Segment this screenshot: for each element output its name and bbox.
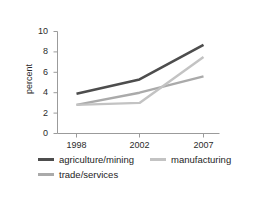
legend-swatch-manufacturing — [150, 158, 166, 161]
y-tick-label-8: 8 — [34, 47, 48, 56]
legend-item-trade-services: trade/services — [38, 169, 118, 180]
y-tick-label-0: 0 — [34, 129, 48, 138]
chart-plot-area: 0 2 4 6 8 10 1998 2002 2007 — [0, 12, 256, 147]
clipped-top-text — [0, 0, 256, 5]
legend-swatch-trade-services — [38, 173, 54, 176]
legend-item-manufacturing: manufacturing — [150, 154, 231, 165]
legend-row-1: agriculture/mining manufacturing — [38, 152, 256, 167]
x-tick-label-2007: 2007 — [184, 141, 224, 150]
legend-item-agriculture-mining: agriculture/mining — [38, 154, 134, 165]
y-tick-label-10: 10 — [31, 27, 48, 36]
y-tick-label-2: 2 — [34, 109, 48, 118]
legend-label-manufacturing: manufacturing — [171, 154, 231, 165]
y-tick-marks — [54, 32, 58, 134]
legend-row-2: trade/services — [38, 167, 256, 182]
figure-canvas: 0 2 4 6 8 10 1998 2002 2007 percent agri… — [0, 0, 256, 203]
y-axis-label: percent — [24, 64, 34, 94]
x-tick-marks — [77, 134, 204, 138]
legend-swatch-agriculture-mining — [38, 158, 54, 161]
y-tick-label-6: 6 — [34, 68, 48, 77]
x-tick-label-1998: 1998 — [57, 141, 97, 150]
chart-legend: agriculture/mining manufacturing trade/s… — [38, 152, 256, 182]
legend-label-agriculture-mining: agriculture/mining — [59, 154, 134, 165]
x-tick-label-2002: 2002 — [120, 141, 160, 150]
legend-label-trade-services: trade/services — [59, 169, 118, 180]
y-tick-label-4: 4 — [34, 88, 48, 97]
